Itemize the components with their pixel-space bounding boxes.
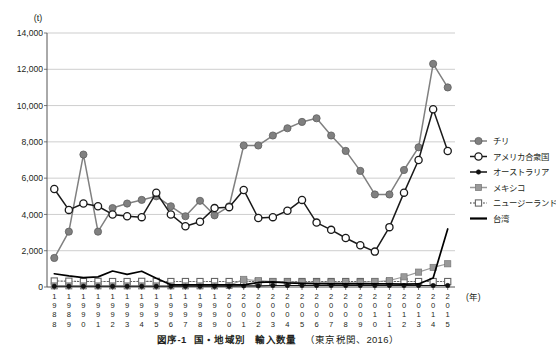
data-point-marker (211, 212, 218, 219)
svg-text:0: 0 (402, 301, 406, 310)
svg-text:2: 2 (358, 292, 362, 301)
data-point-marker (182, 213, 189, 220)
svg-text:2: 2 (373, 292, 377, 301)
svg-text:2: 2 (387, 292, 391, 301)
svg-text:0: 0 (227, 320, 231, 329)
data-point-marker (475, 184, 481, 190)
x-axis-year-label: 1997 (183, 292, 187, 329)
svg-text:2: 2 (416, 292, 420, 301)
data-point-marker (65, 206, 72, 213)
svg-text:5: 5 (446, 320, 450, 329)
svg-text:0: 0 (373, 320, 377, 329)
svg-text:9: 9 (154, 301, 158, 310)
svg-text:1: 1 (198, 292, 202, 301)
x-axis-year-label: 1990 (81, 292, 85, 329)
data-point-marker (138, 196, 145, 203)
x-axis-year-label: 1994 (140, 292, 144, 329)
y-axis-unit-label: (t) (34, 13, 43, 23)
x-axis-year-label: 2008 (344, 292, 348, 329)
data-point-marker (371, 248, 378, 255)
data-point-marker (256, 284, 260, 288)
svg-text:0: 0 (358, 301, 362, 310)
svg-text:9: 9 (140, 301, 144, 310)
data-point-marker (400, 189, 407, 196)
svg-text:1: 1 (373, 310, 377, 319)
svg-text:0: 0 (373, 301, 377, 310)
data-point-marker (444, 147, 451, 154)
svg-text:2: 2 (285, 292, 289, 301)
svg-text:0: 0 (300, 301, 304, 310)
svg-text:9: 9 (81, 310, 85, 319)
data-point-marker (445, 261, 451, 267)
svg-text:1: 1 (431, 310, 435, 319)
data-point-marker (298, 196, 305, 203)
data-point-marker (313, 219, 320, 226)
y-tick-label: 10,000 (17, 101, 44, 111)
data-point-marker (475, 153, 482, 160)
svg-text:0: 0 (314, 310, 318, 319)
svg-text:9: 9 (52, 301, 56, 310)
x-axis-year-label: 1992 (110, 292, 114, 329)
svg-text:6: 6 (314, 320, 318, 329)
x-axis-year-label: 2014 (431, 292, 435, 329)
svg-text:1: 1 (125, 292, 129, 301)
svg-text:1: 1 (242, 320, 246, 329)
svg-text:1: 1 (387, 320, 391, 329)
data-point-marker (271, 283, 275, 287)
svg-text:1: 1 (81, 292, 85, 301)
svg-text:9: 9 (154, 310, 158, 319)
data-point-marker (94, 203, 101, 210)
data-point-marker (241, 276, 247, 282)
data-point-marker (80, 151, 87, 158)
y-tick-label: 8,000 (21, 137, 43, 147)
data-point-marker (430, 106, 437, 113)
data-point-marker (342, 147, 349, 154)
svg-text:0: 0 (242, 301, 246, 310)
data-point-marker (386, 277, 392, 283)
svg-text:9: 9 (358, 320, 362, 329)
svg-text:2: 2 (256, 292, 260, 301)
data-point-marker (65, 228, 72, 235)
svg-text:8: 8 (67, 310, 71, 319)
svg-text:2: 2 (344, 292, 348, 301)
svg-text:1: 1 (212, 292, 216, 301)
svg-text:9: 9 (67, 320, 71, 329)
x-axis-year-label: 1993 (125, 292, 129, 329)
data-point-marker (313, 115, 320, 122)
svg-text:4: 4 (285, 320, 289, 329)
data-point-marker (446, 283, 450, 287)
legend-item-label: メキシコ (493, 183, 525, 193)
data-point-marker (284, 125, 291, 132)
data-point-marker (81, 284, 85, 288)
x-axis-year-label: 2012 (402, 292, 406, 329)
figure-caption: 図序-1国・地域別 輸入数量（東京税関、2016） (0, 332, 556, 346)
svg-text:1: 1 (110, 292, 114, 301)
data-point-marker (430, 60, 437, 67)
svg-text:1: 1 (387, 310, 391, 319)
data-point-marker (96, 284, 100, 288)
svg-text:8: 8 (344, 320, 348, 329)
svg-text:1: 1 (183, 292, 187, 301)
data-point-marker (328, 226, 335, 233)
data-point-marker (400, 166, 407, 173)
svg-text:8: 8 (198, 320, 202, 329)
y-tick-label: 2,000 (21, 246, 43, 256)
svg-text:9: 9 (169, 310, 173, 319)
y-tick-label: 14,000 (17, 28, 44, 38)
svg-text:0: 0 (271, 301, 275, 310)
x-axis-unit-label: (年) (466, 292, 481, 302)
data-point-marker (226, 204, 233, 211)
svg-text:9: 9 (96, 301, 100, 310)
data-point-marker (357, 242, 364, 249)
x-axis-year-label: 1996 (169, 292, 173, 329)
svg-text:4: 4 (431, 320, 435, 329)
x-axis-year-label: 2013 (416, 292, 420, 329)
svg-text:0: 0 (329, 301, 333, 310)
svg-text:2: 2 (256, 320, 260, 329)
x-axis-year-label: 2002 (256, 292, 260, 329)
svg-text:0: 0 (387, 301, 391, 310)
import-quantity-line-chart: (t) 14,00012,00010,0008,0006,0004,0002,0… (0, 0, 556, 354)
data-point-marker (109, 211, 116, 218)
svg-text:1: 1 (140, 292, 144, 301)
svg-text:9: 9 (110, 301, 114, 310)
